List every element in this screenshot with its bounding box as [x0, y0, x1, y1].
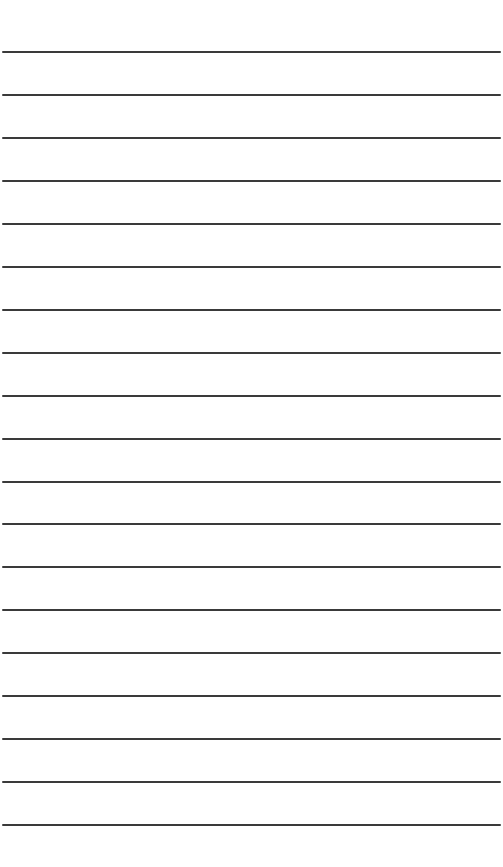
ruled-line: [2, 223, 501, 225]
ruled-line: [2, 51, 501, 53]
ruled-line: [2, 266, 501, 268]
ruled-line: [2, 180, 501, 182]
ruled-line: [2, 652, 501, 654]
ruled-line: [2, 609, 501, 611]
ruled-line: [2, 481, 501, 483]
ruled-line: [2, 395, 501, 397]
ruled-line: [2, 781, 501, 783]
ruled-line: [2, 309, 501, 311]
ruled-line: [2, 695, 501, 697]
ruled-line: [2, 566, 501, 568]
ruled-line: [2, 94, 501, 96]
ruled-line: [2, 137, 501, 139]
ruled-line: [2, 438, 501, 440]
ruled-line: [2, 738, 501, 740]
ruled-line: [2, 352, 501, 354]
ruled-line: [2, 523, 501, 525]
ruled-line: [2, 824, 501, 826]
lined-paper: [0, 0, 503, 867]
